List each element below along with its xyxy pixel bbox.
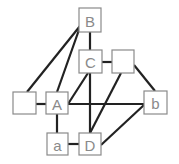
node-box: [112, 50, 134, 73]
node-empty-L: [13, 92, 36, 114]
edge-B-A: [57, 27, 80, 92]
edge-D-b: [101, 105, 144, 145]
edge-C-A: [68, 73, 88, 104]
node-label: b: [151, 95, 159, 112]
node-b: b: [144, 91, 167, 114]
node-A: A: [46, 92, 68, 114]
node-label: B: [85, 13, 95, 30]
node-C: C: [79, 50, 102, 73]
edge-B-L: [27, 26, 80, 92]
node-empty-R: [112, 50, 134, 73]
node-label: D: [85, 137, 96, 154]
node-box: [13, 92, 36, 114]
node-label: a: [53, 137, 62, 154]
node-label: C: [85, 54, 96, 71]
edge-R-b: [134, 65, 155, 91]
node-a: a: [47, 133, 68, 155]
node-B: B: [79, 8, 101, 32]
graph-diagram: BCAbaD: [0, 0, 179, 164]
node-label: A: [52, 96, 62, 113]
node-D: D: [79, 133, 101, 155]
edges-layer: [27, 26, 155, 145]
